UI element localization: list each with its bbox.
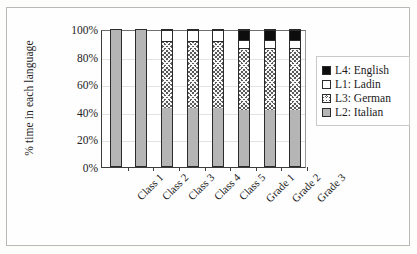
bar-segment-italian [111,30,121,166]
x-axis-tick-mark [307,167,308,171]
y-axis-tick-label: 0% [56,162,98,174]
bar-group [110,31,122,167]
bar-group [161,31,173,167]
legend-label: L3: German [335,92,391,104]
bar-segment-ladin [290,40,300,48]
bar-group [238,31,250,167]
x-axis-tick-label: Class 1 [134,171,165,202]
bar-segment-german [162,41,172,108]
bar-segment-german [265,48,275,111]
bar-segment-italian [188,108,198,166]
legend-label: L1: Ladin [335,78,381,90]
bar-segment-italian [239,110,249,166]
bar-segment-german [188,41,198,108]
y-axis-tick-labels: 0%20%40%60%80%100% [52,30,98,168]
stacked-bar[interactable] [212,29,224,167]
bar-segment-italian [290,110,300,166]
legend-item[interactable]: L3: German [322,92,405,104]
bar-group [289,31,301,167]
stacked-bar[interactable] [264,29,276,167]
legend-swatch-italian-icon [322,108,331,117]
bar-group [135,31,147,167]
stacked-bar[interactable] [135,29,147,167]
x-axis-tick-label: Class 5 [237,171,268,202]
bar-segment-ladin [239,40,249,48]
y-axis-tick-label: 60% [56,79,98,91]
bar-segment-italian [265,110,275,166]
bar-group [212,31,224,167]
bar-segment-german [290,48,300,111]
y-axis-tick-label: 20% [56,134,98,146]
stacked-bar[interactable] [289,29,301,167]
y-axis-tick-label: 40% [56,107,98,119]
bar-segment-german [213,41,223,108]
bar-segment-english [290,30,300,40]
stacked-bar[interactable] [238,29,250,167]
legend-item[interactable]: L2: Italian [322,106,405,118]
legend-swatch-ladin-icon [322,80,331,89]
bar-segment-ladin [188,30,198,41]
y-axis-tick-label: 80% [56,52,98,64]
x-axis-tick-label: Grade 1 [263,171,296,204]
legend-swatch-english-icon [322,66,331,75]
bar-segment-italian [162,108,172,166]
legend-label: L4: English [335,64,389,76]
stacked-bar[interactable] [187,29,199,167]
bar-segment-ladin [162,30,172,41]
x-axis-tick-label: Class 2 [160,171,191,202]
y-axis-title: % time in each language [23,23,35,173]
bar-segment-ladin [213,30,223,41]
bar-segment-german [239,48,249,111]
bar-segment-english [239,30,249,40]
x-axis-tick-label: Class 4 [211,171,242,202]
bar-segment-ladin [265,40,275,48]
bar-segment-italian [136,30,146,166]
bar-segment-italian [213,108,223,166]
bar-group [187,31,199,167]
x-axis-tick-label: Class 3 [185,171,216,202]
bar-series-container [102,31,305,167]
stacked-bar[interactable] [110,29,122,167]
bar-group [264,31,276,167]
y-axis-tick-label: 100% [56,24,98,36]
legend-label: L2: Italian [335,106,383,118]
bar-segment-english [265,30,275,40]
x-axis-tick-labels: Class 1Class 2Class 3Class 4Class 5Grade… [101,171,306,227]
chart-figure: % time in each language 0%20%40%60%80%10… [0,0,417,254]
legend-item[interactable]: L4: English [322,64,405,76]
legend: L4: EnglishL1: LadinL3: GermanL2: Italia… [316,56,410,126]
plot-area [101,30,306,168]
legend-item[interactable]: L1: Ladin [322,78,405,90]
stacked-bar[interactable] [161,29,173,167]
legend-swatch-german-icon [322,94,331,103]
